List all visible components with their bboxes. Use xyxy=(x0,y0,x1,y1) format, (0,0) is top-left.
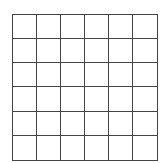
grid-cell-r2-c4 xyxy=(85,39,109,63)
grid-cell-r6-c6 xyxy=(133,136,157,160)
grid-cell-r6-c3 xyxy=(61,136,85,160)
grid-cell-r6-c2 xyxy=(37,136,61,160)
grid-cell-r1-c1 xyxy=(13,15,37,39)
grid-cell-r3-c5 xyxy=(109,63,133,87)
grid-cell-r6-c4 xyxy=(85,136,109,160)
grid-cell-r1-c5 xyxy=(109,15,133,39)
grid-cell-r5-c2 xyxy=(37,112,61,136)
grid-cell-r6-c5 xyxy=(109,136,133,160)
grid-cell-r1-c2 xyxy=(37,15,61,39)
grid-cell-r3-c2 xyxy=(37,63,61,87)
grid-cell-r1-c6 xyxy=(133,15,157,39)
grid-cell-r3-c4 xyxy=(85,63,109,87)
grid-cell-r4-c4 xyxy=(85,87,109,111)
grid-cell-r2-c6 xyxy=(133,39,157,63)
grid-cell-r5-c3 xyxy=(61,112,85,136)
grid-cell-r2-c2 xyxy=(37,39,61,63)
grid-board xyxy=(12,14,158,161)
grid-cell-r5-c6 xyxy=(133,112,157,136)
grid-cell-r2-c1 xyxy=(13,39,37,63)
grid-cell-r3-c1 xyxy=(13,63,37,87)
grid-cell-r6-c1 xyxy=(13,136,37,160)
grid-cell-r4-c6 xyxy=(133,87,157,111)
grid-cell-r1-c4 xyxy=(85,15,109,39)
grid-cell-r5-c1 xyxy=(13,112,37,136)
grid-cell-r4-c1 xyxy=(13,87,37,111)
grid-cell-r1-c3 xyxy=(61,15,85,39)
grid-cell-r5-c5 xyxy=(109,112,133,136)
grid-cell-r4-c3 xyxy=(61,87,85,111)
grid-cell-r5-c4 xyxy=(85,112,109,136)
grid-cell-r3-c3 xyxy=(61,63,85,87)
grid-cell-r4-c2 xyxy=(37,87,61,111)
grid-cell-r2-c5 xyxy=(109,39,133,63)
grid-cell-r2-c3 xyxy=(61,39,85,63)
grid-cell-r4-c5 xyxy=(109,87,133,111)
grid-cell-r3-c6 xyxy=(133,63,157,87)
